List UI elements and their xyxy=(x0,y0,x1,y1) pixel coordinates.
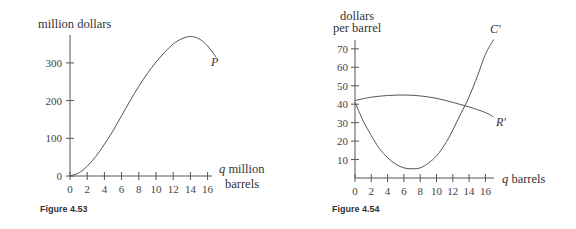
figure-caption: Figure 4.53 xyxy=(40,204,88,214)
x-tick-label: 0 xyxy=(67,183,73,195)
y-tick-label: 200 xyxy=(46,95,63,107)
y-axis-label: million dollars xyxy=(38,17,111,31)
y-tick-label: 30 xyxy=(337,117,349,129)
x-axis-label-line2: barrels xyxy=(225,177,259,191)
x-tick-label: 8 xyxy=(136,183,142,195)
x-tick-label: 12 xyxy=(168,183,179,195)
curve-p xyxy=(70,37,216,177)
x-tick-label: 10 xyxy=(151,183,163,195)
x-tick-label: 12 xyxy=(447,185,458,197)
y-tick-label: 10 xyxy=(337,154,349,166)
y-tick-label: 70 xyxy=(337,43,349,55)
y-tick-label: 50 xyxy=(337,80,349,92)
x-tick-label: 16 xyxy=(202,183,214,195)
figures-canvas: million dollars 0100200300 0246810121416… xyxy=(0,0,576,229)
x-tick-label: 6 xyxy=(119,183,125,195)
x-tick-label: 2 xyxy=(84,183,90,195)
x-tick-label: 10 xyxy=(431,185,443,197)
y-axis-label-line2: per barrel xyxy=(333,21,382,35)
x-tick-label: 14 xyxy=(185,183,197,195)
y-tick-label: 100 xyxy=(46,132,63,144)
figure-4-53: million dollars 0100200300 0246810121416… xyxy=(38,17,265,214)
curve-r-prime-label: R' xyxy=(495,115,506,129)
x-tick-label: 14 xyxy=(464,185,476,197)
x-axis-label: q barrels xyxy=(502,172,546,186)
x-tick-label: 4 xyxy=(102,183,108,195)
x-axis-label-line1: q million xyxy=(219,162,265,176)
y-tick-label: 0 xyxy=(57,170,63,182)
curve-c-prime xyxy=(355,40,494,169)
x-tick-label: 8 xyxy=(417,185,423,197)
x-tick-label: 2 xyxy=(369,185,375,197)
x-ticks: 0246810121416 xyxy=(352,174,491,197)
y-tick-label: 40 xyxy=(337,98,349,110)
figure-caption: Figure 4.54 xyxy=(332,204,380,214)
curve-c-prime-label: C' xyxy=(490,22,501,36)
curve-p-label: P xyxy=(210,55,219,69)
y-tick-label: 60 xyxy=(337,61,349,73)
y-tick-label: 300 xyxy=(46,57,63,69)
x-ticks: 0246810121416 xyxy=(67,172,213,195)
x-tick-label: 16 xyxy=(480,185,492,197)
figure-4-54: dollars per barrel 10203040506070 024681… xyxy=(332,9,546,214)
x-tick-label: 4 xyxy=(385,185,391,197)
x-tick-label: 0 xyxy=(352,185,358,197)
curve-r-prime xyxy=(355,95,494,117)
x-tick-label: 6 xyxy=(401,185,407,197)
y-tick-label: 20 xyxy=(337,135,349,147)
